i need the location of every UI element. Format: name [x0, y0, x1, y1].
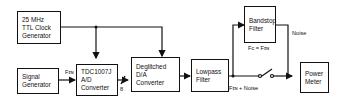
block-label: Power: [305, 70, 324, 78]
block-label: Bandstop: [249, 17, 271, 25]
signal-generator-block: Signal Generator: [17, 68, 59, 94]
block-label: D/A: [136, 71, 175, 79]
center-frequency-label: Fc = Fɪɴ: [248, 45, 269, 51]
block-label: 25 MHz: [22, 16, 56, 24]
lowpass-filter-block: Lowpass Filter: [191, 59, 229, 92]
block-label: Lowpass: [196, 68, 224, 76]
block-label: Filter: [196, 76, 224, 84]
block-label: Meter: [305, 78, 324, 86]
dac-block: Deglitched D/A Converter: [131, 57, 180, 92]
block-label: TDC1007J: [81, 68, 113, 76]
block-label: Generator: [22, 81, 54, 89]
block-label: TTL Clock: [22, 24, 56, 32]
noise-label: Noise: [292, 30, 306, 36]
bandstop-filter-block: Bandstop Filter: [244, 6, 276, 43]
block-label: Converter: [81, 84, 113, 92]
block-label: Generator: [22, 32, 56, 40]
block-label: Converter: [136, 79, 175, 87]
block-label: Deglitched: [136, 63, 175, 71]
power-meter-block: Power Meter: [300, 62, 329, 93]
fin-label: Fɪɴ: [65, 69, 74, 75]
block-label: A/D: [81, 76, 113, 84]
fin-plus-noise-label: Fɪɴ + Noise: [229, 85, 258, 91]
clock-generator-block: 25 MHz TTL Clock Generator: [17, 11, 61, 44]
block-label: Signal: [22, 73, 54, 81]
bus-width-label: 8: [120, 86, 123, 92]
adc-block: TDC1007J A/D Converter: [76, 64, 118, 96]
block-label: Filter: [249, 25, 271, 33]
